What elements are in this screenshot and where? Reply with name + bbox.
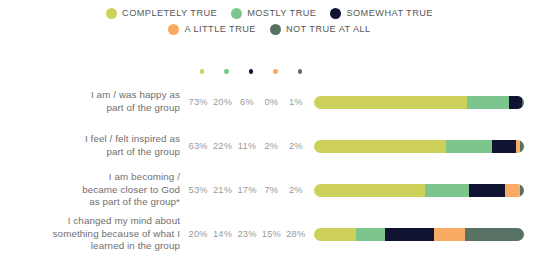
legend-item-label: NOT TRUE AT ALL [286,24,371,35]
chart-row: I feel / felt inspired aspart of the gro… [0,124,539,168]
bar-segment[interactable] [446,140,492,153]
bar-segment[interactable] [314,96,467,109]
row-bar-container [308,140,539,153]
legend-color-dot-icon [270,24,281,35]
percent-value: 2% [284,185,308,195]
legend-item[interactable]: SOMEWHAT TRUE [330,8,433,19]
column-color-dot-icon [200,69,205,74]
row-category-label-line: I changed my mind about [0,215,180,228]
percent-column-dot-headers [190,69,312,74]
row-category-label: I feel / felt inspired aspart of the gro… [0,133,186,158]
row-category-label-line: learned in the group [0,240,180,253]
percent-value: 53% [186,185,210,195]
row-percent-values: 20%14%23%15%28% [186,229,308,239]
bar-segment[interactable] [522,96,524,109]
stacked-bar[interactable] [314,140,524,153]
percent-column-header-cell [288,69,312,74]
bar-segment[interactable] [465,228,524,241]
percent-value: 0% [259,97,283,107]
bar-segment[interactable] [505,184,520,197]
percent-value: 63% [186,141,210,151]
column-color-dot-icon [298,69,303,74]
row-category-label-line: part of the group [0,146,180,159]
bar-segment[interactable] [520,140,524,153]
bar-segment[interactable] [314,140,446,153]
bar-segment[interactable] [385,228,433,241]
row-bar-container [308,184,539,197]
legend-item[interactable]: MOSTLY TRUE [231,8,316,19]
stacked-bar-chart: COMPLETELY TRUEMOSTLY TRUESOMEWHAT TRUEA… [0,0,539,278]
chart-row: I changed my mind aboutsomething because… [0,212,539,256]
stacked-bar[interactable] [314,96,524,109]
legend-color-dot-icon [330,8,341,19]
row-bar-container [308,228,539,241]
percent-column-header-cell [190,69,214,74]
legend-item-label: MOSTLY TRUE [247,8,316,19]
row-percent-values: 73%20%6%0%1% [186,97,308,107]
bar-segment[interactable] [434,228,466,241]
row-category-label: I am becoming /became closer to Godas pa… [0,171,186,209]
percent-value: 2% [284,141,308,151]
legend-line: COMPLETELY TRUEMOSTLY TRUESOMEWHAT TRUE [99,8,440,19]
chart-row: I am / was happy aspart of the group73%2… [0,80,539,124]
column-color-dot-icon [273,69,278,74]
percent-column-header-cell [239,69,263,74]
legend-color-dot-icon [168,24,179,35]
percent-value: 1% [284,97,308,107]
stacked-bar[interactable] [314,228,524,241]
row-percent-values: 63%22%11%2%2% [186,141,308,151]
row-category-label-line: part of the group [0,102,180,115]
bar-segment[interactable] [314,228,356,241]
percent-value: 7% [259,185,283,195]
bar-segment[interactable] [509,96,522,109]
row-category-label-line: something because of what I [0,228,180,241]
percent-value: 21% [210,185,234,195]
column-color-dot-icon [249,69,254,74]
percent-value: 15% [259,229,283,239]
chart-row: I am becoming /became closer to Godas pa… [0,168,539,212]
row-category-label-line: I feel / felt inspired as [0,133,180,146]
bar-segment[interactable] [425,184,469,197]
percent-column-header-cell [263,69,287,74]
row-category-label: I am / was happy aspart of the group [0,89,186,114]
percent-value: 11% [235,141,259,151]
bar-segment[interactable] [356,228,385,241]
bar-segment[interactable] [314,184,425,197]
chart-rows: I am / was happy aspart of the group73%2… [0,80,539,256]
percent-value: 20% [186,229,210,239]
legend-color-dot-icon [106,8,117,19]
percent-value: 23% [235,229,259,239]
bar-segment[interactable] [469,184,505,197]
row-category-label-line: I am becoming / [0,171,180,184]
bar-segment[interactable] [492,140,515,153]
percent-value: 28% [284,229,308,239]
stacked-bar[interactable] [314,184,524,197]
percent-value: 73% [186,97,210,107]
row-category-label-line: became closer to God [0,184,180,197]
row-percent-values: 53%21%17%7%2% [186,185,308,195]
legend-item[interactable]: A LITTLE TRUE [168,24,256,35]
legend-item[interactable]: NOT TRUE AT ALL [270,24,371,35]
bar-segment[interactable] [520,184,524,197]
percent-column-header-cell [214,69,238,74]
legend-item-label: SOMEWHAT TRUE [346,8,433,19]
legend-item[interactable]: COMPLETELY TRUE [106,8,217,19]
percent-value: 6% [235,97,259,107]
legend-color-dot-icon [231,8,242,19]
legend-line: A LITTLE TRUENOT TRUE AT ALL [161,24,377,35]
row-bar-container [308,96,539,109]
bar-segment[interactable] [467,96,509,109]
percent-value: 17% [235,185,259,195]
percent-value: 20% [210,97,234,107]
legend-item-label: COMPLETELY TRUE [122,8,217,19]
percent-value: 22% [210,141,234,151]
percent-value: 14% [210,229,234,239]
row-category-label: I changed my mind aboutsomething because… [0,215,186,253]
chart-legend: COMPLETELY TRUEMOSTLY TRUESOMEWHAT TRUEA… [0,8,539,35]
legend-item-label: A LITTLE TRUE [184,24,256,35]
column-color-dot-icon [224,69,229,74]
percent-value: 2% [259,141,283,151]
row-category-label-line: I am / was happy as [0,89,180,102]
row-category-label-line: as part of the group* [0,196,180,209]
